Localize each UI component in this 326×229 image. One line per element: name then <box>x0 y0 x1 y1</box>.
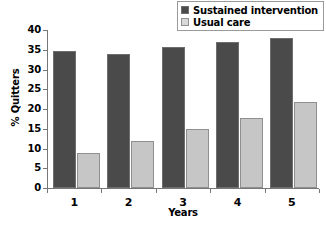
y-tick-mark <box>43 89 47 90</box>
y-tick-mark <box>43 109 47 110</box>
legend-label-usual-care: Usual care <box>193 17 250 28</box>
x-axis-title: Years <box>47 207 319 218</box>
bar-group <box>107 30 154 188</box>
bar[interactable] <box>270 38 293 188</box>
bar-chart: % Quitters 0510152025303540 12345 Years … <box>0 0 326 229</box>
bar-group <box>270 30 317 188</box>
bar[interactable] <box>162 47 185 188</box>
y-tick-label: 10 <box>27 142 41 155</box>
bar[interactable] <box>107 54 130 188</box>
bar[interactable] <box>294 102 317 188</box>
x-tick-mark <box>101 189 102 193</box>
y-tick-mark <box>43 129 47 130</box>
bar[interactable] <box>131 141 154 188</box>
x-tick-mark <box>156 189 157 193</box>
plot-area: 0510152025303540 12345 <box>47 30 319 188</box>
legend-swatch-icon-sustained-intervention <box>181 6 189 14</box>
y-tick-label: 15 <box>27 122 41 135</box>
y-tick-mark <box>43 50 47 51</box>
bar[interactable] <box>186 129 209 188</box>
y-axis-line <box>47 30 48 189</box>
legend-item-sustained-intervention[interactable]: Sustained intervention <box>181 4 318 16</box>
bar[interactable] <box>77 153 100 188</box>
legend: Sustained intervention Usual care <box>177 1 324 31</box>
x-tick-mark <box>47 189 48 193</box>
x-tick-mark <box>265 189 266 193</box>
y-tick-label: 40 <box>27 23 41 36</box>
y-tick-mark <box>43 30 47 31</box>
y-tick-label: 5 <box>34 161 41 174</box>
y-tick-label: 0 <box>34 181 41 194</box>
y-tick-mark <box>43 70 47 71</box>
y-tick-label: 30 <box>27 63 41 76</box>
legend-label-sustained-intervention: Sustained intervention <box>193 5 318 16</box>
x-tick-mark <box>210 189 211 193</box>
bar[interactable] <box>216 42 239 188</box>
x-axis-line <box>47 188 319 189</box>
bar[interactable] <box>240 118 263 188</box>
legend-swatch-icon-usual-care <box>181 18 189 26</box>
y-tick-mark <box>43 149 47 150</box>
x-tick-mark <box>319 189 320 193</box>
bar-group <box>53 30 100 188</box>
y-tick-label: 25 <box>27 82 41 95</box>
bar-group <box>216 30 263 188</box>
y-tick-label: 35 <box>27 43 41 56</box>
bar-group <box>162 30 209 188</box>
bar[interactable] <box>53 51 76 188</box>
y-axis-title: % Quitters <box>10 50 21 146</box>
y-tick-mark <box>43 168 47 169</box>
legend-item-usual-care[interactable]: Usual care <box>181 16 318 28</box>
y-tick-label: 20 <box>27 102 41 115</box>
